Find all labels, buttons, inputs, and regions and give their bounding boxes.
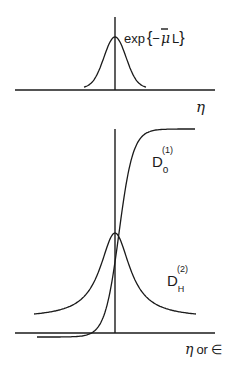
bottom-panel: Do (1) DH (2) ηor∈ xyxy=(15,129,222,357)
top-x-label: η xyxy=(196,98,205,116)
d-h-label: DH xyxy=(167,272,184,294)
d-o-superscript: (1) xyxy=(162,145,173,155)
bottom-x-label: ηor∈ xyxy=(185,341,222,357)
top-panel: exp{−μL} η xyxy=(15,17,215,116)
figure: exp{−μL} η Do (1) DH (2) ηor∈ xyxy=(0,0,233,374)
d-h-superscript: (2) xyxy=(177,264,188,274)
exp-label: exp{−μL} xyxy=(124,29,185,46)
d-o-label: Do xyxy=(152,153,169,175)
